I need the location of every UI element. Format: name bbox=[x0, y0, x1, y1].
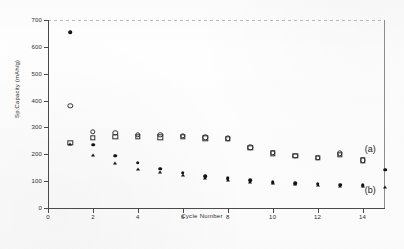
data-point-open-square bbox=[158, 135, 163, 140]
data-point-filled-triangle bbox=[203, 176, 207, 179]
y-tick bbox=[44, 74, 49, 75]
data-point-open-square bbox=[360, 158, 365, 163]
data-point-filled-circle bbox=[114, 154, 118, 158]
data-point-filled-circle bbox=[91, 143, 95, 147]
data-point-filled-triangle bbox=[226, 179, 230, 182]
plot-top-border bbox=[48, 20, 385, 21]
data-point-filled-triangle bbox=[68, 143, 72, 146]
data-point-open-square bbox=[247, 145, 252, 150]
y-tick-label: 200 bbox=[31, 151, 42, 157]
data-point-open-square bbox=[90, 135, 95, 140]
data-point-filled-triangle bbox=[248, 180, 252, 183]
data-point-filled-triangle bbox=[158, 171, 162, 174]
data-point-filled-triangle bbox=[316, 183, 320, 186]
data-point-open-square bbox=[180, 134, 185, 139]
data-point-filled-triangle bbox=[91, 154, 95, 157]
data-point-filled-triangle bbox=[338, 184, 342, 187]
y-tick-label: 500 bbox=[31, 71, 42, 77]
data-point-filled-triangle bbox=[271, 181, 275, 184]
y-tick-label: 100 bbox=[31, 178, 42, 184]
y-tick bbox=[44, 101, 49, 102]
data-point-open-square bbox=[203, 136, 208, 141]
data-point-filled-triangle bbox=[181, 173, 185, 176]
data-point-open-square bbox=[225, 136, 230, 141]
data-point-open-square bbox=[337, 152, 342, 157]
data-point-filled-triangle bbox=[293, 182, 297, 185]
y-tick bbox=[44, 20, 49, 21]
figure-root: Sp.Capacity (mAh/g) 01002003004005006007… bbox=[0, 0, 404, 249]
data-point-filled-triangle bbox=[383, 185, 387, 188]
y-tick bbox=[44, 127, 49, 128]
data-point-open-circle bbox=[68, 103, 73, 108]
series-label-b: (b) bbox=[365, 186, 376, 195]
x-axis-line bbox=[48, 208, 385, 209]
y-tick bbox=[44, 154, 49, 155]
y-axis-title: Sp.Capacity (mAh/g) bbox=[14, 60, 20, 118]
data-point-open-circle bbox=[90, 129, 95, 134]
data-point-open-square bbox=[135, 134, 140, 139]
x-axis-title: Cycle Number bbox=[0, 213, 404, 220]
data-point-open-square bbox=[315, 155, 320, 160]
series-label-a: (a) bbox=[365, 145, 376, 154]
data-point-filled-circle bbox=[136, 161, 140, 165]
data-point-filled-triangle bbox=[113, 161, 117, 164]
data-point-filled-circle bbox=[69, 30, 73, 34]
data-point-open-square bbox=[292, 153, 297, 158]
data-point-filled-triangle bbox=[136, 167, 140, 170]
y-tick-label: 400 bbox=[31, 98, 42, 104]
y-tick bbox=[44, 181, 49, 182]
data-point-open-square bbox=[270, 151, 275, 156]
plot-area: 0100200300400500600700 02468101214 (a)(b… bbox=[48, 20, 385, 209]
data-point-filled-circle bbox=[383, 168, 387, 172]
y-tick bbox=[44, 47, 49, 48]
y-tick-label: 700 bbox=[31, 17, 42, 23]
y-tick-label: 300 bbox=[31, 124, 42, 130]
y-tick-label: 600 bbox=[31, 44, 42, 50]
y-tick-label: 0 bbox=[38, 205, 42, 211]
data-point-open-square bbox=[113, 134, 118, 139]
plot-right-border bbox=[384, 20, 385, 209]
